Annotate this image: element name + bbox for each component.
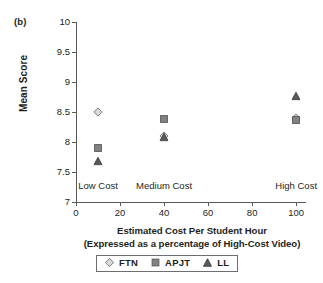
x-tick-label: 100 bbox=[288, 208, 304, 218]
data-point-apjt bbox=[94, 144, 103, 153]
x-axis-line bbox=[76, 202, 306, 203]
x-tick-mark bbox=[76, 202, 77, 206]
y-tick-mark bbox=[72, 142, 76, 143]
triangle-icon bbox=[203, 258, 212, 267]
data-point-ll bbox=[160, 132, 169, 141]
x-tick-label: 0 bbox=[73, 208, 78, 218]
legend-item-apjt[interactable]: APJT bbox=[151, 258, 190, 268]
x-tick-label: 80 bbox=[247, 208, 258, 218]
x-tick-mark bbox=[120, 202, 121, 206]
group-label: High Cost bbox=[275, 181, 317, 191]
group-label: Low Cost bbox=[78, 181, 118, 191]
legend-label: FTN bbox=[119, 258, 138, 268]
y-tick-label: 8 bbox=[65, 137, 70, 147]
y-tick-mark bbox=[72, 112, 76, 113]
figure-panel-b: (b) Mean Score Estimated Cost Per Studen… bbox=[0, 0, 323, 283]
square-icon bbox=[151, 258, 160, 267]
x-axis-title-line2: (Expressed as a percentage of High-Cost … bbox=[76, 237, 308, 250]
data-point-apjt bbox=[160, 115, 169, 124]
x-tick-label: 60 bbox=[203, 208, 214, 218]
plot-area: 77.588.599.510 Low CostMedium CostHigh C… bbox=[76, 22, 305, 202]
x-axis-title-line1: Estimated Cost Per Student Hour bbox=[76, 224, 308, 237]
x-tick-label: 20 bbox=[115, 208, 126, 218]
y-tick-mark bbox=[72, 52, 76, 53]
x-axis-title: Estimated Cost Per Student Hour (Express… bbox=[76, 224, 308, 250]
y-tick-label: 8.5 bbox=[57, 107, 70, 117]
y-tick-label: 7 bbox=[65, 197, 70, 207]
legend-label: APJT bbox=[165, 258, 190, 268]
y-tick-label: 7.5 bbox=[57, 167, 70, 177]
data-point-apjt bbox=[292, 116, 301, 125]
legend-label: LL bbox=[217, 258, 229, 268]
x-tick-mark bbox=[208, 202, 209, 206]
x-tick-mark bbox=[296, 202, 297, 206]
data-point-ll bbox=[94, 156, 103, 165]
data-point-ftn bbox=[94, 108, 103, 117]
y-tick-label: 9.5 bbox=[57, 47, 70, 57]
x-tick-label: 40 bbox=[159, 208, 170, 218]
diamond-icon bbox=[105, 258, 114, 267]
legend: FTNAPJTLL bbox=[96, 255, 238, 272]
y-tick-mark bbox=[72, 22, 76, 23]
y-tick-label: 9 bbox=[65, 77, 70, 87]
group-label: Medium Cost bbox=[136, 181, 192, 191]
data-point-ll bbox=[292, 91, 301, 100]
legend-item-ll[interactable]: LL bbox=[203, 258, 229, 268]
y-tick-label: 10 bbox=[59, 17, 70, 27]
x-tick-mark bbox=[252, 202, 253, 206]
legend-item-ftn[interactable]: FTN bbox=[105, 258, 138, 268]
x-tick-mark bbox=[164, 202, 165, 206]
y-tick-mark bbox=[72, 82, 76, 83]
y-axis-title: Mean Score bbox=[18, 55, 29, 112]
panel-letter: (b) bbox=[14, 16, 26, 27]
y-tick-mark bbox=[72, 172, 76, 173]
